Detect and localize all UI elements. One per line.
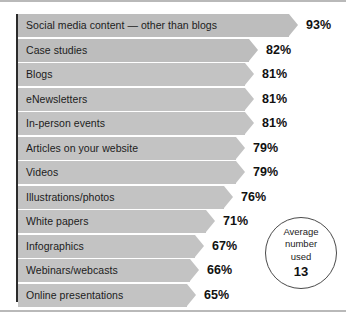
bar-category-label: White papers xyxy=(26,210,88,233)
bar-value-label: 82% xyxy=(266,39,291,62)
bar-tip-icon xyxy=(245,112,254,134)
bar-value-label: 67% xyxy=(212,235,237,258)
bar-category-label: Blogs xyxy=(26,63,53,86)
bar-value-label: 66% xyxy=(207,259,232,282)
bar-tip-icon xyxy=(245,63,254,85)
bar-tip-icon xyxy=(249,39,258,61)
bar-category-label: Illustrations/photos xyxy=(26,186,115,209)
chart-frame: Social media content — other than blogs … xyxy=(0,0,346,312)
bar-tip-icon xyxy=(236,161,245,183)
bar-category-label: Articles on your website xyxy=(26,137,138,160)
bar-category-label: Webinars/webcasts xyxy=(26,259,118,282)
bar-value-label: 65% xyxy=(204,284,229,307)
bar-value-label: 79% xyxy=(253,137,278,160)
bar-category-label: Online presentations xyxy=(26,284,123,307)
bar-category-label: Infographics xyxy=(26,235,84,258)
bar-tip-icon xyxy=(224,186,233,208)
bar-tip-icon xyxy=(206,210,215,232)
table-row: Illustrations/photos 76% xyxy=(18,186,346,209)
average-number-used-callout: Average number used 13 xyxy=(265,217,337,289)
average-label-line1: Average xyxy=(283,226,318,239)
bar-tip-icon xyxy=(236,137,245,159)
table-row: Social media content — other than blogs … xyxy=(18,14,346,37)
average-label-line2: number xyxy=(285,238,317,251)
bar-value-label: 81% xyxy=(262,63,287,86)
bar-category-label: Videos xyxy=(26,161,58,184)
table-row: eNewsletters 81% xyxy=(18,88,346,111)
bar-tip-icon xyxy=(245,88,254,110)
bar-value-label: 71% xyxy=(223,210,248,233)
bar-tip-icon xyxy=(190,259,199,281)
bar-tip-icon xyxy=(187,284,196,306)
average-label-line3: used xyxy=(291,251,312,264)
bar-value-label: 76% xyxy=(241,186,266,209)
bar-value-label: 81% xyxy=(262,112,287,135)
bar-tip-icon xyxy=(289,14,298,36)
table-row: In-person events 81% xyxy=(18,112,346,135)
average-value: 13 xyxy=(294,264,308,280)
table-row: Articles on your website 79% xyxy=(18,137,346,160)
bar-value-label: 79% xyxy=(253,161,278,184)
bar-category-label: In-person events xyxy=(26,112,105,135)
bar-category-label: Case studies xyxy=(26,39,87,62)
table-row: Videos 79% xyxy=(18,161,346,184)
table-row: Case studies 82% xyxy=(18,39,346,62)
bar-value-label: 81% xyxy=(262,88,287,111)
bar-value-label: 93% xyxy=(306,14,331,37)
bar-category-label: eNewsletters xyxy=(26,88,87,111)
table-row: Blogs 81% xyxy=(18,63,346,86)
bar-category-label: Social media content — other than blogs xyxy=(26,14,217,37)
bar-tip-icon xyxy=(195,235,204,257)
